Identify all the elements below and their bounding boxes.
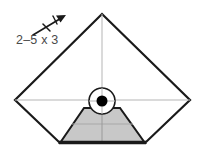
dimension-annotation-label: 2–5 x 3 (16, 33, 58, 47)
diagram-canvas: 2–5 x 3 (0, 0, 200, 161)
center-dot (97, 96, 108, 107)
geometry-figure (0, 0, 200, 161)
direction-arrow-icon (33, 15, 66, 35)
